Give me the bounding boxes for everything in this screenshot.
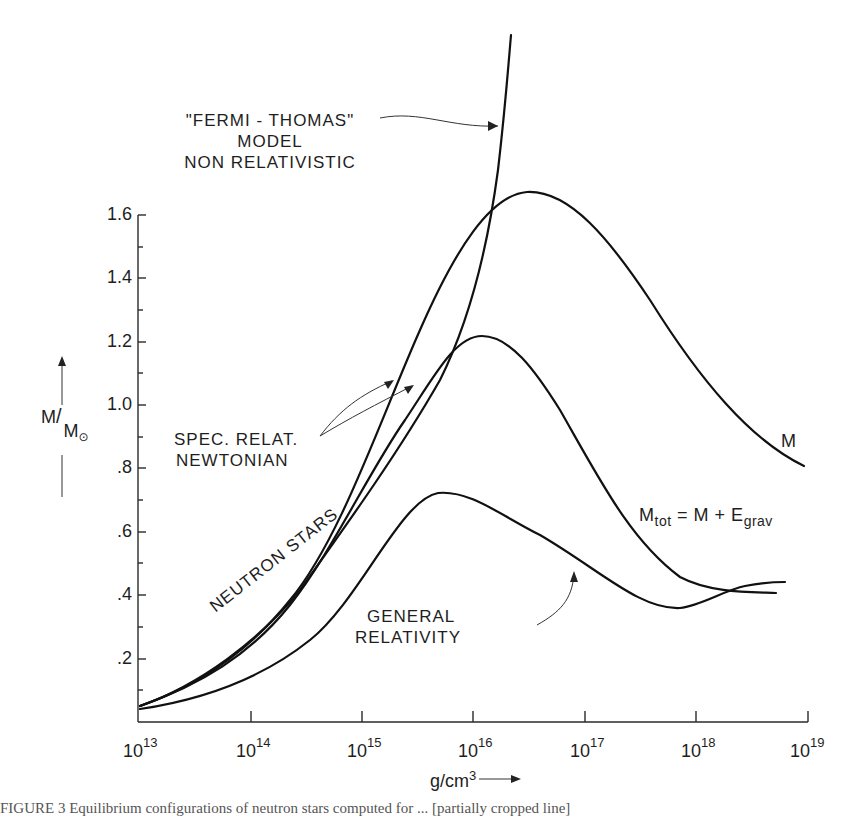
y-tick-1-6: 1.6 <box>88 204 132 225</box>
x-tick-base: 10 <box>347 741 367 761</box>
x-tick-exp: 14 <box>256 735 270 750</box>
x-tick-1e17: 1017 <box>570 738 605 762</box>
ylabel-slash: / <box>56 405 62 427</box>
x-tick-1e15: 1015 <box>347 738 382 762</box>
y-tick-1-2: 1.2 <box>88 331 132 352</box>
y-tick-1-4: 1.4 <box>88 267 132 288</box>
chart-figure: "FERMI - THOMAS" MODEL NON RELATIVISTIC … <box>0 0 862 816</box>
x-tick-base: 10 <box>236 741 256 761</box>
arrow-spec-relat <box>320 381 392 436</box>
arrowhead-general-relativity <box>570 571 578 582</box>
y-tick-0-6: .6 <box>88 521 132 542</box>
x-tick-base: 10 <box>123 741 143 761</box>
arrowhead-xlabel <box>511 775 521 783</box>
ylabel-numerator: M <box>41 407 56 427</box>
mtot-m: M <box>639 505 655 525</box>
x-tick-base: 10 <box>681 741 701 761</box>
x-tick-base: 10 <box>570 741 590 761</box>
x-tick-exp: 13 <box>143 735 157 750</box>
arrowhead-newtonian <box>404 385 414 394</box>
annotation-general-relativity: GENERAL RELATIVITY <box>355 606 461 648</box>
mtot-eq: = M + E <box>677 505 744 525</box>
arrow-general-relativity <box>537 574 574 625</box>
ylabel-sun-symbol: ⊙ <box>79 430 89 444</box>
fermi-line-2: MODEL <box>150 131 390 152</box>
x-tick-base: 10 <box>458 741 478 761</box>
arrowhead-spec-relat <box>384 380 394 389</box>
arrow-fermi <box>380 116 498 126</box>
ylabel-denominator: M <box>64 421 79 441</box>
relativity-label: RELATIVITY <box>355 627 461 648</box>
arrowhead-fermi <box>488 121 498 131</box>
y-tick-0-4: .4 <box>88 584 132 605</box>
fermi-line-3: NON RELATIVISTIC <box>150 152 390 173</box>
x-tick-1e13: 1013 <box>123 738 158 762</box>
x-axis-label: g/cm3 <box>430 768 476 792</box>
x-tick-1e19: 1019 <box>790 738 825 762</box>
x-tick-exp: 18 <box>701 735 715 750</box>
fermi-line-1: "FERMI - THOMAS" <box>150 110 390 131</box>
figure-caption: FIGURE 3 Equilibrium configurations of n… <box>0 800 570 816</box>
y-axis-label: M/ M⊙ <box>41 405 92 428</box>
arrowhead-ylabel <box>58 356 66 366</box>
x-tick-exp: 17 <box>590 735 604 750</box>
mtot-grav-sub: grav <box>744 513 773 529</box>
annotation-m: M <box>781 431 797 452</box>
x-tick-base: 10 <box>790 741 810 761</box>
general-label: GENERAL <box>355 606 461 627</box>
annotation-mtot: Mtot = M + Egrav <box>639 505 773 532</box>
y-tick-1-0: 1.0 <box>88 394 132 415</box>
newtonian-label: NEWTONIAN <box>174 450 298 471</box>
y-tick-0-2: .2 <box>88 648 132 669</box>
annotation-spec-relat: SPEC. RELAT. NEWTONIAN <box>174 429 298 471</box>
x-tick-exp: 16 <box>478 735 492 750</box>
y-tick-0-8: .8 <box>88 457 132 478</box>
x-tick-exp: 15 <box>367 735 381 750</box>
annotation-fermi-thomas: "FERMI - THOMAS" MODEL NON RELATIVISTIC <box>150 110 390 173</box>
spec-relat-label: SPEC. RELAT. <box>174 429 298 450</box>
mtot-sub: tot <box>655 513 672 529</box>
x-tick-exp: 19 <box>810 735 824 750</box>
xlabel-base: g/cm <box>430 771 469 791</box>
x-tick-1e14: 1014 <box>236 738 271 762</box>
x-tick-1e18: 1018 <box>681 738 716 762</box>
xlabel-exp: 3 <box>469 768 476 783</box>
x-tick-1e16: 1016 <box>458 738 493 762</box>
